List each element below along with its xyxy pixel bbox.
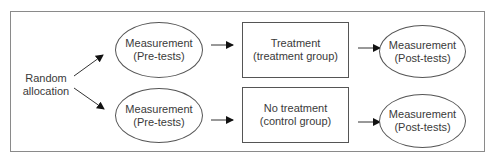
treatment-box: Treatment (treatment group)	[242, 22, 349, 78]
pretest-subtitle: (Pre-tests)	[125, 116, 192, 129]
arrow-to-pretest-control	[74, 88, 104, 109]
pretest-subtitle: (Pre-tests)	[125, 50, 192, 63]
posttest-title: Measurement	[389, 108, 456, 121]
no-treatment-subtitle: (control group)	[260, 115, 332, 128]
pretest-title: Measurement	[125, 103, 192, 116]
posttest-subtitle: (Post-tests)	[389, 52, 456, 65]
posttest-title: Measurement	[389, 39, 456, 52]
posttest-subtitle: (Post-tests)	[389, 121, 456, 134]
treatment-subtitle: (treatment group)	[253, 50, 338, 63]
random-allocation-line1: Random	[18, 72, 74, 85]
pretest-measurement-control: Measurement (Pre-tests)	[115, 88, 203, 143]
random-allocation-label: Random allocation	[18, 72, 74, 98]
posttest-measurement-treatment: Measurement (Post-tests)	[379, 25, 466, 78]
pretest-measurement-treatment: Measurement (Pre-tests)	[115, 22, 203, 78]
arrow-to-pretest-treatment	[74, 55, 103, 76]
no-treatment-title: No treatment	[260, 102, 332, 115]
pretest-title: Measurement	[125, 37, 192, 50]
no-treatment-box: No treatment (control group)	[242, 87, 349, 143]
treatment-title: Treatment	[253, 37, 338, 50]
random-allocation-line2: allocation	[18, 85, 74, 98]
posttest-measurement-control: Measurement (Post-tests)	[379, 94, 466, 148]
